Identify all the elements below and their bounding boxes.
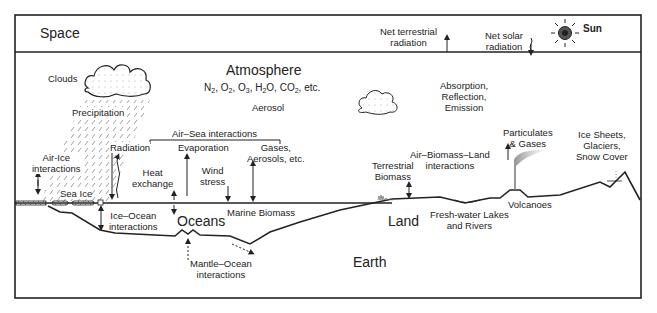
radiation-label: Radiation xyxy=(110,142,150,153)
mantle-ocean-label: Mantle–Ocean interactions xyxy=(190,258,252,280)
particulates-line1: Particulates xyxy=(503,127,553,138)
wind-line2: stress xyxy=(200,176,225,187)
gases-line1: Gases, xyxy=(247,142,305,153)
oceans-label: Oceans xyxy=(177,214,225,229)
wind-line1: Wind xyxy=(200,165,225,176)
sea-ice-icon xyxy=(16,200,103,205)
evaporation-label: Evaporation xyxy=(178,142,229,153)
particulates-line2: & Gases xyxy=(503,138,553,149)
air-ice-label: Air-Ice interactions xyxy=(32,152,81,174)
gases-aerosols-label: Gases, Aerosols, etc. xyxy=(247,142,305,164)
terrestrial-biomass-label: Terrestrial Biomass xyxy=(372,160,414,182)
air-biomass-land-label: Air–Biomass–Land interactions xyxy=(410,149,490,171)
heat-line2: exchange xyxy=(132,178,173,189)
absorption-line1: Absorption, xyxy=(440,80,488,91)
heat-exchange-label: Heat exchange xyxy=(132,167,173,189)
volcano-plume xyxy=(514,150,546,190)
ice-sheets-line3: Snow Cover xyxy=(576,151,628,162)
atmosphere-gases-label: N2, O2, O3, H2O, CO2, etc. xyxy=(204,82,320,96)
ice-sheets-line2: Glaciers, xyxy=(576,140,628,151)
ice-sheets-line1: Ice Sheets, xyxy=(576,129,628,140)
net-solar-line1: Net solar xyxy=(485,30,523,41)
earth-label: Earth xyxy=(353,255,386,270)
air-sea-label: Air–Sea interactions xyxy=(172,128,257,139)
gases-line2: Aerosols, etc. xyxy=(247,153,305,164)
ice-ocean-label: Ice–Ocean interactions xyxy=(109,210,158,232)
freshwater-label: Fresh-water Lakes and Rivers xyxy=(430,209,509,231)
ice-sheets-label: Ice Sheets, Glaciers, Snow Cover xyxy=(576,129,628,162)
gas-text: , etc. xyxy=(299,82,321,93)
mantle-ocean-line1: Mantle–Ocean xyxy=(190,258,252,269)
climate-system-diagram xyxy=(0,0,657,313)
absorption-line2: Reflection, xyxy=(440,91,488,102)
sun-label: Sun xyxy=(583,23,602,34)
gas-text: , H xyxy=(250,82,263,93)
particulates-label: Particulates & Gases xyxy=(503,127,553,149)
absorption-label: Absorption, Reflection, Emission xyxy=(440,80,488,113)
wind-stress-label: Wind stress xyxy=(200,165,225,187)
air-biomass-line1: Air–Biomass–Land xyxy=(410,149,490,160)
precipitation-label: Precipitation xyxy=(72,107,124,118)
net-terrestrial-label: Net terrestrial radiation xyxy=(380,26,437,48)
air-biomass-line2: interactions xyxy=(410,160,490,171)
absorption-line3: Emission xyxy=(440,102,488,113)
air-ice-line1: Air-Ice xyxy=(32,152,81,163)
space-label: Space xyxy=(40,26,80,41)
terrestrial-line1: Terrestrial xyxy=(372,160,414,171)
land-label: Land xyxy=(388,214,419,229)
net-terrestrial-line2: radiation xyxy=(380,37,437,48)
heat-line1: Heat xyxy=(132,167,173,178)
ice-ocean-line1: Ice–Ocean xyxy=(109,210,158,221)
atmosphere-label: Atmosphere xyxy=(226,63,301,78)
sun-icon xyxy=(551,19,579,47)
cloud-large-icon xyxy=(85,65,150,97)
sea-ice-label: Sea Ice xyxy=(60,188,92,199)
net-solar-line2: radiation xyxy=(485,41,523,52)
freshwater-line1: Fresh-water Lakes xyxy=(430,209,509,220)
gas-text: , O xyxy=(215,82,228,93)
gas-text: , O xyxy=(232,82,245,93)
marine-biomass-label: Marine Biomass xyxy=(227,207,295,218)
clouds-label: Clouds xyxy=(48,73,78,84)
terrestrial-line2: Biomass xyxy=(372,171,414,182)
net-solar-arrow-icon xyxy=(530,38,532,53)
aerosol-label: Aerosol xyxy=(252,102,284,113)
freshwater-line2: and Rivers xyxy=(430,220,509,231)
air-ice-line2: interactions xyxy=(32,163,81,174)
ice-ocean-line2: interactions xyxy=(109,221,158,232)
net-terrestrial-line1: Net terrestrial xyxy=(380,26,437,37)
net-solar-label: Net solar radiation xyxy=(485,30,523,52)
gas-text: O, CO xyxy=(266,82,294,93)
mantle-ocean-line2: interactions xyxy=(190,269,252,280)
cloud-small-icon xyxy=(359,91,398,115)
volcanoes-label: Volcanoes xyxy=(508,199,552,210)
